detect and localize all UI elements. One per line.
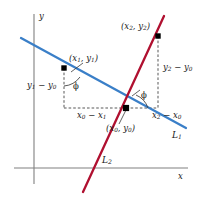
segment-label-dx1: x0 − x1 (77, 111, 106, 121)
line-label-L2: L2 (102, 156, 112, 165)
point-marker-1 (61, 65, 66, 70)
angle-label-phi-left: ϕ (73, 82, 79, 91)
y-axis-label: y (39, 12, 44, 21)
figure-canvas (0, 0, 202, 198)
point-label-1: (x1, y1) (69, 54, 98, 64)
angle-label-phi-right: ϕ (141, 91, 147, 100)
segment-label-dy2: y2 − y0 (163, 63, 193, 73)
L2-sub: 2 (108, 158, 112, 165)
dx1-op: − (85, 110, 98, 120)
axes-group (14, 14, 188, 184)
segment-label-dy1: y1 − y0 (27, 81, 57, 91)
point-label-2: (x2, y2) (121, 22, 150, 32)
point-1-close: ) (95, 53, 98, 63)
line-L2 (83, 16, 164, 192)
dy1-b-sub: 0 (53, 84, 57, 90)
point-marker-0 (123, 105, 129, 111)
geometry-figure: y x (x1, y1) (x2, y2) (x0, y0) y1 − y0 x… (0, 0, 202, 198)
segment-label-dx2: x2 − x0 (152, 111, 181, 121)
point-marker-2 (155, 33, 160, 38)
L1-sub: 1 (178, 133, 182, 140)
dx2-op: − (160, 110, 173, 120)
point-2-close: ) (147, 21, 150, 31)
x-axis-label: x (178, 172, 183, 181)
line-label-L1: L1 (172, 131, 182, 140)
dx1-b-sub: 1 (103, 114, 107, 120)
dy1-op: − (35, 80, 48, 90)
point-0-close: ) (132, 123, 135, 133)
dy2-b-sub: 0 (189, 66, 193, 72)
dy2-op: − (171, 62, 184, 72)
dx2-b-sub: 0 (178, 114, 182, 120)
point-label-0: (x0, y0) (106, 124, 135, 134)
